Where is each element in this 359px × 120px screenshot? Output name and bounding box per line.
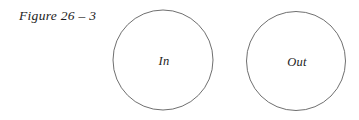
figure-canvas: Figure 26 – 3 In Out xyxy=(0,0,359,120)
out-circle-label: Out xyxy=(287,55,306,70)
in-circle-label: In xyxy=(159,54,170,69)
